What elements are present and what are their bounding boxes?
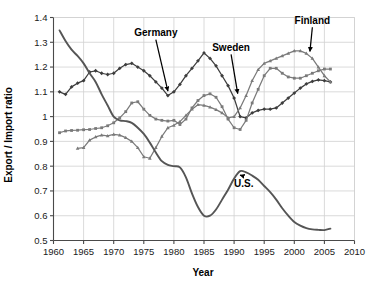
y-tick-label: 0.7: [34, 185, 47, 196]
data-point-marker: [287, 76, 290, 79]
data-point-marker: [245, 119, 248, 122]
data-point-marker: [233, 126, 236, 129]
data-point-marker: [293, 77, 296, 80]
data-point-marker: [118, 116, 121, 119]
data-point-marker: [221, 105, 224, 108]
x-tick-label: 2000: [284, 246, 305, 257]
y-tick-label: 0.6: [34, 210, 47, 221]
x-tick-label: 1975: [133, 246, 154, 257]
data-point-marker: [112, 121, 115, 124]
data-point-marker: [166, 120, 169, 123]
data-point-marker: [215, 96, 218, 99]
x-axis-tick-labels: 1960196519701975198019851990199520002005…: [43, 246, 365, 257]
y-tick-label: 1: [42, 111, 47, 122]
data-point-marker: [64, 130, 67, 133]
y-tick-label: 1.3: [34, 37, 47, 48]
data-point-marker: [136, 100, 139, 103]
data-point-marker: [323, 68, 326, 71]
data-point-marker: [124, 110, 127, 113]
data-point-marker: [263, 74, 266, 77]
y-axis-title: Export / Import ratio: [3, 87, 14, 183]
annotation-label: Finland: [295, 15, 331, 26]
y-tick-label: 1.2: [34, 61, 47, 72]
data-point-marker: [82, 128, 85, 131]
y-tick-label: 0.9: [34, 136, 47, 147]
data-point-marker: [173, 119, 176, 122]
x-tick-label: 1960: [43, 246, 64, 257]
x-tick-label: 2010: [344, 246, 365, 257]
data-point-marker: [160, 119, 163, 122]
x-axis-title: Year: [192, 267, 213, 278]
data-point-marker: [269, 67, 272, 70]
y-tick-label: 0.5: [34, 235, 47, 246]
data-point-marker: [148, 114, 151, 117]
data-point-marker: [305, 74, 308, 77]
y-tick-label: 1.4: [34, 12, 47, 23]
x-tick-label: 1985: [193, 246, 214, 257]
annotation-us: U.S.: [234, 175, 254, 189]
data-point-marker: [70, 129, 73, 132]
data-point-marker: [58, 131, 61, 134]
export-import-ratio-line-chart: 0.50.60.70.80.911.11.21.31.4 19601965197…: [0, 0, 373, 281]
y-tick-label: 0.8: [34, 161, 47, 172]
data-point-marker: [106, 124, 109, 127]
x-tick-label: 1970: [103, 246, 124, 257]
data-point-marker: [311, 72, 314, 75]
x-tick-label: 1980: [163, 246, 184, 257]
data-point-marker: [88, 128, 91, 131]
data-point-marker: [179, 123, 182, 126]
x-tick-label: 1990: [224, 246, 245, 257]
data-point-marker: [329, 68, 332, 71]
data-point-marker: [299, 77, 302, 80]
data-point-marker: [203, 94, 206, 97]
x-tick-label: 1995: [254, 246, 275, 257]
data-point-marker: [257, 88, 260, 91]
data-point-marker: [251, 102, 254, 105]
annotation-label: Germany: [134, 27, 178, 38]
data-point-marker: [185, 118, 188, 121]
data-point-marker: [94, 127, 97, 130]
x-tick-label: 2005: [314, 246, 335, 257]
data-point-marker: [197, 99, 200, 102]
data-point-marker: [130, 102, 133, 105]
data-point-marker: [154, 118, 157, 121]
data-point-marker: [142, 108, 145, 111]
annotation-label: Sweden: [212, 42, 250, 53]
y-tick-label: 1.1: [34, 86, 47, 97]
data-point-marker: [100, 126, 103, 129]
data-point-marker: [76, 129, 79, 132]
data-point-marker: [317, 69, 320, 72]
data-point-marker: [275, 67, 278, 70]
chart-container: 0.50.60.70.80.911.11.21.31.4 19601965197…: [0, 0, 373, 281]
annotation-label: U.S.: [234, 178, 254, 189]
x-tick-label: 1965: [73, 246, 94, 257]
data-point-marker: [281, 72, 284, 75]
data-point-marker: [239, 128, 242, 131]
data-point-marker: [209, 92, 212, 95]
